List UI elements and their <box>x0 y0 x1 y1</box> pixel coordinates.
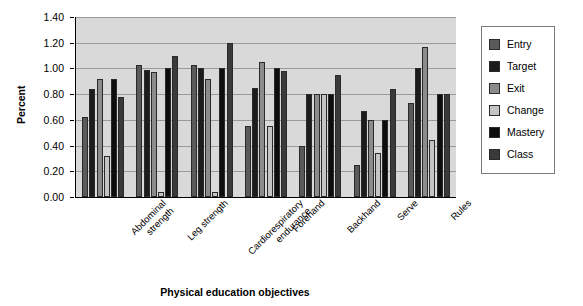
bar <box>82 117 88 197</box>
bar <box>321 94 327 197</box>
x-axis-tick-label: Leg strength <box>186 198 231 243</box>
bar <box>354 165 360 197</box>
bar-group <box>239 17 293 197</box>
bar <box>144 70 150 197</box>
y-axis-tick-mark <box>70 120 74 121</box>
legend-swatch-icon <box>489 83 500 94</box>
bar <box>375 153 381 197</box>
y-axis-tick-label: 0.60 <box>44 114 64 126</box>
bar <box>118 97 124 197</box>
bar-group <box>185 17 239 197</box>
legend-item-class[interactable]: Class <box>489 143 554 165</box>
y-axis-tick-mark <box>70 146 74 147</box>
legend-swatch-icon <box>489 61 500 72</box>
legend-swatch-icon <box>489 127 500 138</box>
bar <box>361 111 367 197</box>
bar <box>198 68 204 197</box>
bar <box>314 94 320 197</box>
bar <box>111 79 117 197</box>
y-axis-tick-mark <box>70 197 74 198</box>
bar <box>328 94 334 197</box>
bar <box>306 94 312 197</box>
bar <box>219 68 225 197</box>
legend-swatch-icon <box>489 149 500 160</box>
bar-group <box>347 17 401 197</box>
y-axis-tick-mark <box>70 171 74 172</box>
bar <box>437 94 443 197</box>
bar <box>281 71 287 197</box>
bar <box>415 68 421 197</box>
y-axis-tick-label: 1.40 <box>44 11 64 23</box>
legend-item-change[interactable]: Change <box>489 99 554 121</box>
bar <box>444 94 450 197</box>
x-axis-tick-label: Cardiorespiratoryendurance <box>246 198 312 264</box>
bar <box>158 192 164 197</box>
bar <box>136 65 142 197</box>
x-axis-tick-label: Abdominalstrength <box>129 198 176 245</box>
y-axis-tick-mark <box>70 68 74 69</box>
bar <box>104 156 110 197</box>
y-axis-tick-label: 0.20 <box>44 165 64 177</box>
y-axis-tick-label: 1.20 <box>44 37 64 49</box>
y-axis-tick-labels: 0.000.200.400.600.801.001.201.40 <box>26 10 70 204</box>
bar <box>259 62 265 197</box>
x-axis-tick-labels: AbdominalstrengthLeg strengthCardiorespi… <box>75 198 455 276</box>
bar <box>212 192 218 197</box>
bar <box>172 56 178 197</box>
bar <box>335 75 341 197</box>
y-axis-tick-label: 1.00 <box>44 62 64 74</box>
bar-group <box>130 17 184 197</box>
x-axis-tick-label: Backhand <box>346 198 383 235</box>
legend-label: Change <box>507 104 544 116</box>
bar <box>97 79 103 197</box>
bar <box>390 89 396 197</box>
bar <box>89 89 95 197</box>
legend-item-exit[interactable]: Exit <box>489 77 554 99</box>
legend-label: Mastery <box>507 126 544 138</box>
bar-groups <box>76 17 456 197</box>
legend-label: Target <box>507 60 536 72</box>
x-axis-title: Physical education objectives <box>0 286 470 298</box>
bar <box>252 88 258 197</box>
bar <box>151 72 157 197</box>
bar <box>267 126 273 197</box>
plot-area <box>75 17 456 198</box>
legend-swatch-icon <box>489 105 500 116</box>
bar <box>422 47 428 197</box>
bar <box>245 126 251 197</box>
bar <box>299 146 305 197</box>
legend-item-entry[interactable]: Entry <box>489 33 554 55</box>
bar <box>227 43 233 197</box>
x-axis-tick-label: Rules <box>449 198 474 223</box>
bar <box>408 103 414 197</box>
bar-chart: Percent 0.000.200.400.600.801.001.201.40… <box>0 0 583 306</box>
bar-group <box>76 17 130 197</box>
y-axis-tick-label: 0.40 <box>44 140 64 152</box>
y-axis-tick-mark <box>70 94 74 95</box>
legend-label: Entry <box>507 38 532 50</box>
bar <box>429 140 435 197</box>
y-axis-tick-mark <box>70 43 74 44</box>
bar-group <box>293 17 347 197</box>
legend-item-target[interactable]: Target <box>489 55 554 77</box>
bar <box>368 120 374 197</box>
legend: EntryTargetExitChangeMasteryClass <box>481 26 555 174</box>
bar <box>382 120 388 197</box>
legend-label: Exit <box>507 82 525 94</box>
bar <box>191 65 197 197</box>
legend-swatch-icon <box>489 39 500 50</box>
y-axis-tick-mark <box>70 17 74 18</box>
bar <box>274 68 280 197</box>
y-axis-tick-label: 0.80 <box>44 88 64 100</box>
x-axis-tick-label: Serve <box>395 198 420 223</box>
bar <box>165 68 171 197</box>
bar-group <box>402 17 456 197</box>
bar <box>205 79 211 197</box>
legend-label: Class <box>507 148 533 160</box>
y-axis-tick-label: 0.00 <box>44 191 64 203</box>
legend-item-mastery[interactable]: Mastery <box>489 121 554 143</box>
